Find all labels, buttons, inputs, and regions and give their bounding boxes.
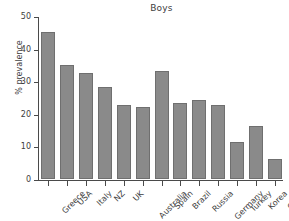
- y-tick: 20: [34, 115, 38, 116]
- y-tick-label: 0: [26, 175, 31, 184]
- x-tick: [48, 181, 49, 186]
- x-tick: [256, 181, 257, 186]
- x-tick-label-text: NZ: [112, 189, 126, 203]
- x-tick-label-text: Italy: [95, 189, 114, 208]
- bar: [268, 159, 282, 179]
- y-tick: 30: [34, 82, 38, 83]
- x-tick: [143, 181, 144, 186]
- bar: [230, 142, 244, 179]
- plot-area: 01020304050 GreeceUSAItalyNZUKAustraliaS…: [38, 17, 283, 180]
- x-tick: [86, 181, 87, 186]
- x-tick: [199, 181, 200, 186]
- x-tick-label: Italy: [95, 189, 114, 208]
- x-tick: [162, 181, 163, 186]
- bar: [98, 87, 112, 179]
- x-tick-label: Russia: [211, 189, 236, 214]
- x-tick: [105, 181, 106, 186]
- chart-title: Boys: [0, 3, 289, 13]
- x-tick: [275, 181, 276, 186]
- bar: [41, 32, 55, 179]
- x-tick-label-text: UK: [131, 189, 145, 203]
- x-axis-line: [38, 180, 283, 181]
- x-tick-label-text: Russia: [211, 189, 236, 214]
- x-tick: [180, 181, 181, 186]
- y-tick-label: 40: [21, 45, 31, 54]
- bar: [79, 73, 93, 179]
- x-tick: [67, 181, 68, 186]
- y-tick-label: 50: [21, 12, 31, 21]
- x-tick-label-text: Spain: [172, 189, 194, 211]
- bar: [136, 107, 150, 179]
- y-tick-label: 20: [21, 110, 31, 119]
- bar: [60, 65, 74, 179]
- bar: [249, 126, 263, 179]
- y-tick: 50: [34, 17, 38, 18]
- y-tick: 10: [34, 147, 38, 148]
- bar: [173, 103, 187, 179]
- bar: [211, 105, 225, 179]
- bar: [192, 100, 206, 179]
- y-tick-label: 10: [21, 142, 31, 151]
- y-tick-label: 30: [21, 77, 31, 86]
- bar-chart: Boys % prevalence 01020304050 GreeceUSAI…: [0, 0, 289, 221]
- x-tick-label: NZ: [112, 189, 126, 203]
- x-tick-label: UK: [131, 189, 145, 203]
- x-tick: [237, 181, 238, 186]
- x-tick: [124, 181, 125, 186]
- x-tick-label: Brazil: [191, 189, 213, 211]
- x-tick-label: Spain: [172, 189, 194, 211]
- y-tick: 40: [34, 50, 38, 51]
- bar: [117, 105, 131, 179]
- y-axis-line: [38, 17, 39, 181]
- y-tick: 0: [34, 180, 38, 181]
- x-tick-label-text: Brazil: [191, 189, 213, 211]
- x-tick: [218, 181, 219, 186]
- bar: [155, 71, 169, 179]
